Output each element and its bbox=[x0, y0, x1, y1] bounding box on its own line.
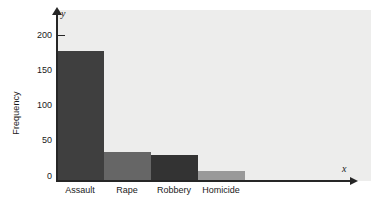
y-axis-line bbox=[56, 14, 58, 182]
x-axis-line bbox=[56, 180, 352, 182]
x-tick-label-homicide: Homicide bbox=[181, 185, 261, 195]
y-tick-label-200: 200 bbox=[24, 31, 52, 40]
y-axis-title: Frequency bbox=[11, 73, 21, 153]
bar-series bbox=[57, 10, 371, 181]
y-tick-label-50-wrap: 50 bbox=[22, 136, 52, 145]
y-tick-label-50: 50 bbox=[24, 136, 52, 145]
y-tick-label-200-wrap: 200 bbox=[22, 31, 52, 40]
y-axis-letter: y bbox=[61, 8, 65, 19]
y-tick-label-0: 0 bbox=[24, 172, 52, 181]
bar-assault bbox=[57, 51, 104, 181]
x-axis-arrow-icon bbox=[350, 177, 358, 185]
y-tick-label-150: 150 bbox=[24, 66, 52, 75]
y-tick-label-100-wrap: 100 bbox=[22, 101, 52, 110]
x-axis-letter: x bbox=[342, 163, 346, 174]
bar-robbery bbox=[151, 155, 198, 181]
y-tick-label-150-wrap: 150 bbox=[22, 66, 52, 75]
y-tick-label-0-wrap: 0 bbox=[22, 172, 52, 181]
y-tick-label-100: 100 bbox=[24, 101, 52, 110]
bar-rape bbox=[104, 152, 151, 181]
bar-chart-figure: Frequency 200 150 100 50 0 y x Assault R… bbox=[0, 0, 371, 206]
